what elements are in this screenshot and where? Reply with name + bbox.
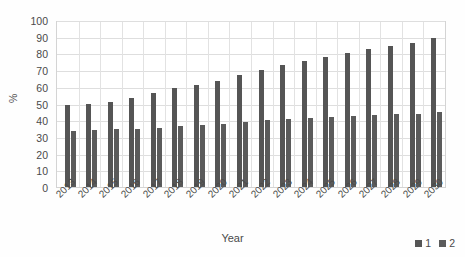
x-axis-title: Year <box>0 232 465 244</box>
y-tick-90: 90 <box>36 32 48 44</box>
x-tick-cell: 2024 <box>294 190 316 230</box>
x-tick-cell: 2018 <box>164 190 186 230</box>
bar-1-2015[interactable] <box>108 102 113 187</box>
x-tick-cell: 2020 <box>208 190 230 230</box>
bar-1-2014[interactable] <box>86 104 91 188</box>
x-tick-cell: 2017 <box>143 190 165 230</box>
legend-swatch-icon <box>439 240 446 247</box>
x-tick-cell: 2030 <box>424 190 446 230</box>
bars-layer <box>57 22 445 187</box>
x-tick-cell: 2015 <box>99 190 121 230</box>
bar-chart: % 1009080706050403020100 201320142015201… <box>0 0 465 257</box>
bar-1-2029[interactable] <box>410 43 415 187</box>
x-tick-cell: 2023 <box>273 190 295 230</box>
bar-1-2018[interactable] <box>172 88 177 187</box>
bar-1-2013[interactable] <box>65 105 70 187</box>
bar-group-2017 <box>143 22 165 187</box>
bar-2-2030[interactable] <box>437 112 442 187</box>
bar-group-2016 <box>122 22 144 187</box>
bar-group-2025 <box>316 22 338 187</box>
x-tick-cell: 2016 <box>121 190 143 230</box>
bar-group-2027 <box>359 22 381 187</box>
bar-1-2021[interactable] <box>237 75 242 187</box>
bar-group-2029 <box>402 22 424 187</box>
legend-label: 1 <box>425 237 431 249</box>
y-tick-100: 100 <box>30 15 48 27</box>
bar-1-2019[interactable] <box>194 85 199 187</box>
bar-1-2016[interactable] <box>129 98 134 187</box>
y-tick-20: 20 <box>36 149 48 161</box>
x-tick-cell: 2021 <box>229 190 251 230</box>
bar-1-2030[interactable] <box>431 38 436 187</box>
bar-1-2026[interactable] <box>345 53 350 187</box>
bar-group-2014 <box>79 22 101 187</box>
legend-swatch-icon <box>415 240 422 247</box>
bar-group-2026 <box>337 22 359 187</box>
x-tick-cell: 2025 <box>316 190 338 230</box>
chart-legend: 12 <box>415 237 455 249</box>
y-tick-70: 70 <box>36 65 48 77</box>
x-tick-cell: 2013 <box>56 190 78 230</box>
bar-1-2017[interactable] <box>151 93 156 187</box>
y-tick-10: 10 <box>36 165 48 177</box>
y-tick-80: 80 <box>36 48 48 60</box>
y-tick-60: 60 <box>36 82 48 94</box>
x-axis-tick-labels: 2013201420152016201720182019202020212022… <box>56 190 446 230</box>
bar-group-2018 <box>165 22 187 187</box>
bar-group-2024 <box>294 22 316 187</box>
bar-group-2015 <box>100 22 122 187</box>
bar-group-2013 <box>57 22 79 187</box>
bar-1-2023[interactable] <box>280 65 285 187</box>
plot-area <box>56 21 446 188</box>
legend-label: 2 <box>449 237 455 249</box>
bar-1-2022[interactable] <box>259 70 264 187</box>
bar-1-2027[interactable] <box>366 49 371 187</box>
bar-1-2024[interactable] <box>302 61 307 187</box>
x-tick-cell: 2022 <box>251 190 273 230</box>
bar-group-2021 <box>230 22 252 187</box>
y-tick-0: 0 <box>42 182 48 194</box>
legend-item-2[interactable]: 2 <box>439 237 455 249</box>
x-tick-cell: 2019 <box>186 190 208 230</box>
bar-group-2030 <box>424 22 446 187</box>
x-tick-cell: 2029 <box>403 190 425 230</box>
x-tick-cell: 2014 <box>78 190 100 230</box>
y-tick-30: 30 <box>36 132 48 144</box>
y-tick-50: 50 <box>36 99 48 111</box>
bar-1-2020[interactable] <box>215 81 220 187</box>
bar-group-2022 <box>251 22 273 187</box>
x-tick-cell: 2027 <box>359 190 381 230</box>
y-tick-40: 40 <box>36 115 48 127</box>
bar-group-2020 <box>208 22 230 187</box>
bar-group-2028 <box>380 22 402 187</box>
bar-group-2023 <box>273 22 295 187</box>
bar-1-2028[interactable] <box>388 46 393 187</box>
bar-1-2025[interactable] <box>323 57 328 187</box>
legend-item-1[interactable]: 1 <box>415 237 431 249</box>
bar-group-2019 <box>186 22 208 187</box>
x-tick-cell: 2026 <box>338 190 360 230</box>
x-tick-cell: 2028 <box>381 190 403 230</box>
y-axis-tick-labels: 1009080706050403020100 <box>0 0 52 257</box>
